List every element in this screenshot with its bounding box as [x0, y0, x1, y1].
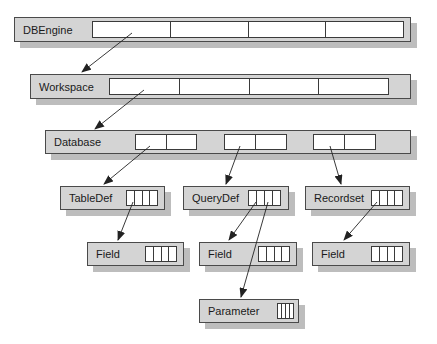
- arrow-icon: [118, 202, 133, 240]
- arrow-icon: [104, 146, 150, 184]
- arrow-icon: [226, 146, 240, 184]
- arrow-icon: [229, 202, 256, 240]
- arrow-icon: [82, 33, 132, 72]
- arrow-icon: [95, 90, 144, 129]
- connector-layer: [0, 0, 437, 344]
- arrow-icon: [241, 202, 268, 297]
- arrow-icon: [344, 202, 377, 240]
- arrow-icon: [330, 146, 341, 184]
